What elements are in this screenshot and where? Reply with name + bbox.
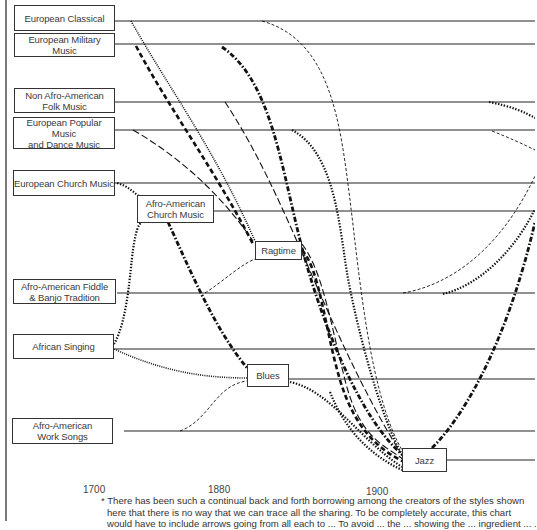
label-european-popular-line1: European Popular Music [14, 117, 114, 139]
curve-jazz-to-later [432, 222, 535, 448]
curve-classical-to-jazz [262, 21, 405, 455]
box-european-popular-dance-music: European Popular Music and Dance Music [13, 117, 115, 149]
box-ragtime: Ragtime [255, 241, 302, 260]
label-non-afro-folk-line1: Non Afro-American [25, 90, 104, 101]
label-european-classical: European Classical [24, 13, 104, 24]
box-non-afro-american-folk-music: Non Afro-American Folk Music [14, 88, 115, 113]
footnote: * There has been such a continual back a… [101, 495, 535, 530]
label-afro-work-line2: Work Songs [33, 431, 92, 442]
curve-popular-to-jazz [292, 130, 404, 458]
label-ragtime: Ragtime [261, 245, 296, 256]
curve-folk-to-jazz [225, 102, 400, 452]
box-afro-american-fiddle-banjo: Afro-American Fiddle & Banjo Tradition [13, 279, 116, 304]
footnote-line-1: * There has been such a continual back a… [101, 495, 535, 507]
label-blues: Blues [256, 370, 279, 381]
label-afro-church-line2: Church Music [146, 209, 205, 220]
label-jazz: Jazz [415, 455, 434, 466]
label-afro-church-line1: Afro-American [146, 198, 205, 209]
curve-popular-to-ragtime [133, 130, 253, 241]
label-european-popular-line2: and Dance Music [14, 139, 114, 150]
box-afro-american-church-music: Afro-American Church Music [137, 195, 214, 223]
box-european-church-music: European Church Music [13, 170, 115, 196]
box-european-military-music: European Military Music [14, 33, 115, 57]
curve-work-songs-to-blues [180, 381, 247, 431]
label-afro-work-line1: Afro-American [33, 420, 92, 431]
curve-military-to-jazz [222, 47, 404, 456]
box-jazz: Jazz [402, 448, 447, 472]
label-afro-fiddle-line1: Afro-American Fiddle [21, 281, 108, 292]
curve-popular-to-later [492, 131, 535, 150]
influence-curves [114, 21, 535, 470]
curve-fiddle-to-later-dotted [443, 209, 535, 294]
label-non-afro-folk-line2: Folk Music [25, 101, 104, 112]
curve-african-singing-to-blues [114, 349, 247, 378]
footnote-line-2: here that there is no way that we can tr… [101, 507, 535, 519]
box-european-classical: European Classical [14, 5, 115, 31]
curve-ragtime-to-jazz [302, 250, 404, 462]
box-afro-american-work-songs: Afro-American Work Songs [12, 418, 113, 444]
curve-fiddle-to-later-dashed [403, 176, 535, 293]
curve-fiddle-to-ragtime [205, 259, 255, 293]
axis-tick-1700: 1700 [83, 484, 105, 495]
label-european-church-music: European Church Music [14, 178, 114, 189]
box-blues: Blues [247, 364, 289, 387]
label-european-military-music: European Military Music [15, 34, 114, 56]
label-african-singing: African Singing [32, 341, 94, 352]
curve-african-singing-to-afro-church [114, 222, 142, 344]
axis-tick-1880: 1880 [208, 484, 230, 495]
footnote-line-3: would have to include arrows going from … [101, 518, 535, 530]
curve-afro-church-to-blues [168, 222, 248, 369]
curve-folk-to-later [489, 102, 535, 118]
label-afro-fiddle-line2: & Banjo Tradition [21, 292, 108, 303]
box-african-singing: African Singing [13, 334, 114, 359]
